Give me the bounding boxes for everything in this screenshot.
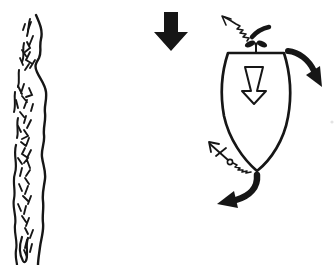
riverbank-shoreline (14, 15, 47, 265)
riverbank-left-edge-broken (14, 19, 30, 138)
stern-swing-arrow-curve (288, 51, 314, 71)
thrust-stroke (252, 27, 269, 37)
riverbank-right-edge (36, 15, 47, 265)
bow-swing-arrowhead (217, 191, 238, 208)
riverbank-texture-scribbles (16, 22, 35, 257)
anchor-ring (227, 159, 232, 164)
anchor (209, 142, 233, 165)
riverbank-left-edge-lower (14, 145, 17, 265)
prop-wash-arrow-shaft (224, 17, 249, 41)
diagram-canvas (0, 0, 335, 265)
bow-swing-arrow (217, 175, 257, 208)
bow-swing-arrow-curve (236, 175, 257, 200)
paper-speck (330, 120, 333, 123)
boat-anchoring-diagram (0, 0, 335, 265)
current-direction-arrow (154, 12, 188, 51)
current-arrow-shape (154, 12, 188, 51)
prop-wash-arrow (222, 16, 249, 41)
stern-swing-arrow (288, 51, 322, 87)
anchor-shank (210, 144, 228, 160)
